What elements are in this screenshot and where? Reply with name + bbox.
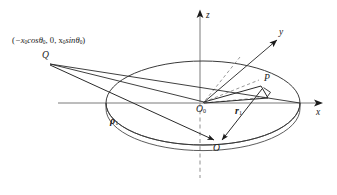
figure-canvas: (−x0cosθ0, 0, x0sinθ0) Q z x y O0 P O ρ1… bbox=[0, 0, 337, 195]
vector-label-rho1: ρ1 bbox=[110, 116, 118, 127]
axis-label-y: y bbox=[279, 28, 283, 37]
point-label-Q: Q bbox=[42, 50, 49, 60]
line-Q-to-origin bbox=[50, 64, 204, 102]
z-axis bbox=[197, 10, 204, 179]
point-label-O0: O0 bbox=[196, 104, 206, 115]
diagram-svg bbox=[0, 0, 337, 195]
vector-r1 bbox=[222, 89, 262, 140]
point-label-O: O bbox=[213, 143, 220, 153]
point-Q-coordinates: (−x0cosθ0, 0, x0sinθ0) bbox=[12, 36, 85, 46]
vector-label-r1: r1 bbox=[235, 106, 242, 117]
axis-label-z: z bbox=[206, 11, 210, 20]
point-label-P: P bbox=[264, 73, 270, 83]
axis-label-x: x bbox=[316, 108, 320, 117]
